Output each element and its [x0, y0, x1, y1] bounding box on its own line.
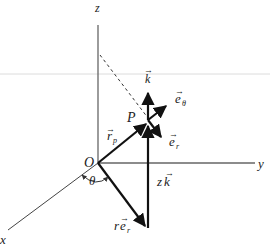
svg-text:r: r [176, 142, 180, 151]
svg-text:p: p [112, 136, 117, 145]
origin-label: O [84, 155, 94, 170]
z-axis-label: z [94, 1, 100, 15]
x-axis-label: x [0, 232, 6, 246]
diagram-svg: z y x O P θ → r p → k → e θ → e r z → k … [0, 0, 270, 246]
svg-text:k: k [145, 72, 151, 86]
e-r-label: → e r [169, 129, 180, 151]
z-k-label: z → k [156, 168, 174, 189]
svg-text:e: e [169, 134, 175, 149]
e-theta-unit-vector [148, 106, 166, 120]
x-axis [8, 163, 98, 230]
r-p-label: → r p [106, 124, 117, 145]
svg-text:e: e [175, 91, 181, 106]
y-axis-label: y [256, 156, 264, 171]
e-r-unit-vector [148, 120, 161, 137]
k-label: → k [144, 65, 153, 86]
svg-text:k: k [164, 174, 170, 189]
e-theta-label: → e θ [175, 86, 186, 108]
r-er-label: r → e r [114, 213, 131, 235]
svg-text:θ: θ [182, 99, 186, 108]
svg-text:e: e [120, 218, 126, 233]
cylindrical-coordinates-diagram: z y x O P θ → r p → k → e θ → e r z → k … [0, 0, 270, 246]
svg-text:r: r [127, 226, 131, 235]
theta-label: θ [89, 173, 96, 188]
svg-text:z: z [156, 174, 162, 189]
dashed-projection-line [100, 55, 148, 118]
point-p-label: P [126, 110, 136, 125]
